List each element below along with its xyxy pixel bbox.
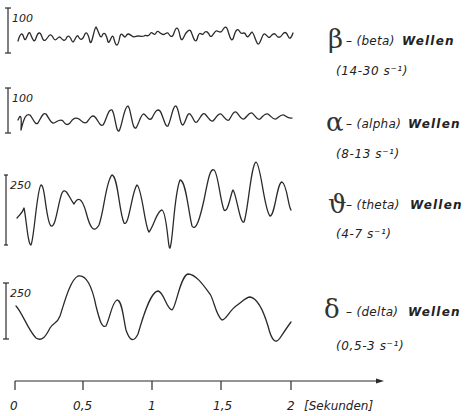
- delta-legend: δ – (delta) Wellen (0,5-3 s⁻¹): [324, 294, 461, 353]
- delta-scale-label: 250: [10, 287, 31, 300]
- delta-symbol: δ: [324, 294, 340, 324]
- delta-wave-trace: [16, 274, 291, 341]
- beta-wellen-label: Wellen: [402, 34, 455, 48]
- alpha-frequency: (8-13 s⁻¹): [336, 147, 400, 161]
- beta-symbol: β: [328, 24, 343, 54]
- theta-scale-label: 250: [10, 179, 31, 192]
- beta-frequency: (14-30 s⁻¹): [336, 64, 408, 78]
- delta-wellen-label: Wellen: [408, 305, 461, 319]
- theta-frequency: (4-7 s⁻¹): [336, 227, 392, 241]
- theta-symbol: ϑ: [328, 189, 347, 219]
- tick-label-2: 2: [287, 399, 295, 413]
- delta-frequency: (0,5-3 s⁻¹): [336, 339, 404, 353]
- eeg-waves-figure: 100 β – (beta) Wellen (14-30 s⁻¹) 100 α …: [0, 0, 466, 416]
- beta-wave-trace: [18, 27, 293, 45]
- time-unit-label: [Sekunden]: [304, 399, 373, 413]
- theta-legend: ϑ – (theta) Wellen (4-7 s⁻¹): [328, 189, 463, 241]
- alpha-label: – (alpha): [346, 117, 401, 131]
- delta-wave-group: 250: [3, 274, 291, 341]
- axis-arrow-icon: [376, 379, 384, 384]
- theta-label: – (theta): [346, 198, 400, 212]
- alpha-legend: α – (alpha) Wellen (8-13 s⁻¹): [326, 107, 461, 161]
- alpha-wave-group: 100: [5, 88, 292, 133]
- alpha-wave-trace: [18, 106, 292, 131]
- time-axis: 0 0,5 1 1,5 2 [Sekunden]: [10, 379, 384, 414]
- beta-legend: β – (beta) Wellen (14-30 s⁻¹): [328, 24, 455, 78]
- alpha-wellen-label: Wellen: [408, 117, 461, 131]
- tick-label-1-5: 1,5: [213, 399, 232, 413]
- tick-label-1: 1: [148, 399, 156, 413]
- alpha-symbol: α: [326, 107, 344, 137]
- theta-wellen-label: Wellen: [410, 198, 463, 212]
- alpha-scale-label: 100: [12, 92, 33, 105]
- tick-label-0-5: 0,5: [73, 399, 92, 413]
- beta-scale-label: 100: [12, 12, 33, 25]
- beta-label: – (beta): [346, 34, 395, 48]
- beta-wave-group: 100: [5, 8, 293, 53]
- theta-wave-group: 250: [4, 162, 291, 248]
- tick-label-0: 0: [10, 399, 18, 413]
- theta-wave-trace: [17, 162, 291, 248]
- delta-label: – (delta): [346, 305, 398, 319]
